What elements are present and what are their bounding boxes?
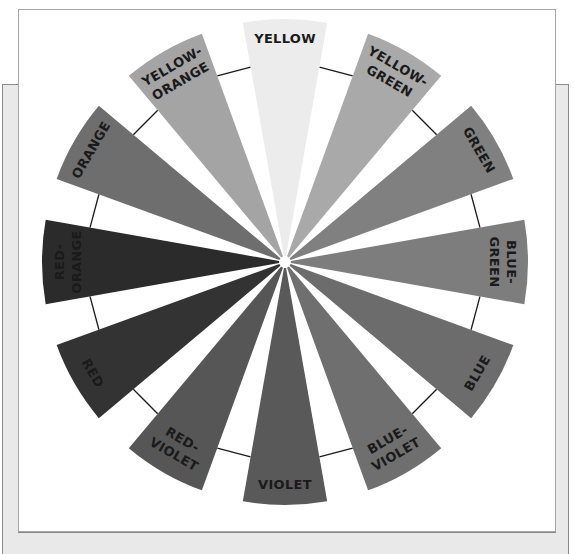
wedge-label-text: BLUE- <box>504 240 519 284</box>
connector-line <box>471 194 480 227</box>
connector-line <box>412 110 436 134</box>
connector-line <box>90 296 99 329</box>
connector-line <box>217 67 250 76</box>
connector-line <box>133 110 157 134</box>
wedge-label-text: GREEN <box>487 237 502 288</box>
connector-line <box>412 389 436 413</box>
connector-line <box>471 296 480 329</box>
wedge-label-text: RED- <box>52 244 67 281</box>
connector-line <box>319 448 352 457</box>
label-yellow: YELLOW <box>253 31 316 46</box>
wedge-label-text: ORANGE <box>69 230 84 293</box>
label-violet: VIOLET <box>258 477 312 492</box>
wedge-label-text: VIOLET <box>258 477 312 492</box>
wedges <box>42 19 528 505</box>
connector-line <box>217 448 250 457</box>
connector-line <box>133 389 157 413</box>
connector-line <box>319 67 352 76</box>
wedge-label-text: YELLOW <box>253 31 316 46</box>
connector-line <box>90 194 99 227</box>
